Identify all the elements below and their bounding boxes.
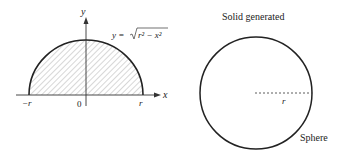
diagram-canvas: y x −r 0 r y = r² − x² Solid generated r…	[0, 0, 346, 150]
x-axis-arrow-icon	[154, 93, 161, 98]
equation-lhs: y =	[111, 30, 124, 40]
x-axis-label: x	[162, 89, 168, 100]
tick-label-origin: 0	[77, 99, 82, 109]
tick-label-neg-r: −r	[22, 98, 32, 108]
sphere-label: Sphere	[300, 132, 328, 143]
equation-radicand: r² − x²	[138, 30, 162, 40]
solid-generated-title: Solid generated	[222, 11, 284, 22]
curve-equation: y = r² − x²	[111, 28, 168, 40]
radius-label: r	[282, 96, 286, 106]
y-axis-label: y	[80, 6, 86, 17]
y-axis-arrow-icon	[84, 17, 89, 24]
tick-label-pos-r: r	[139, 98, 143, 108]
